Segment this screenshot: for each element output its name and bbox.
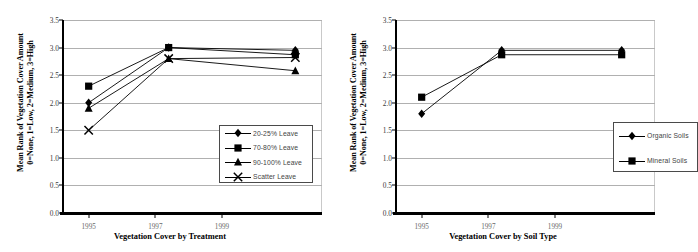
- data-point-marker: [84, 126, 92, 134]
- legend-item[interactable]: 20-25% Leave: [225, 128, 298, 138]
- x-tick-label: 1999: [215, 223, 229, 231]
- y-axis-title-line2: 0=None, 1=Low, 2=Medium, 3=High: [359, 0, 369, 205]
- y-tick-label: 1.0: [50, 153, 59, 162]
- y-axis-title-line1: Mean Rank of Vegetation Cover Amount: [16, 0, 26, 205]
- legend: 20-25% Leave70-80% Leave90-100% LeaveSca…: [219, 125, 313, 183]
- series-line: [89, 58, 296, 131]
- y-tick-label: 0.0: [50, 209, 59, 218]
- y-tick-label: 2.5: [50, 71, 59, 80]
- legend-marker-diamond-icon: [619, 131, 645, 141]
- y-tick-label: 2.0: [50, 98, 59, 107]
- legend-marker-diamond-icon: [225, 128, 251, 138]
- legend-marker-cross-icon: [225, 172, 251, 182]
- data-point-marker: [498, 51, 505, 58]
- x-tick-label: 1999: [548, 223, 562, 231]
- x-axis-title: Vegetation Cover by Soil Type: [373, 232, 633, 241]
- series-layer: [395, 20, 655, 213]
- x-tick-label: 1997: [481, 223, 495, 231]
- y-axis-title: Mean Rank of Vegetation Cover Amount 0=N…: [349, 0, 368, 205]
- y-tick-label: 1.0: [383, 153, 392, 162]
- legend-label: 20-25% Leave: [253, 130, 298, 137]
- legend-item[interactable]: Mineral Soils: [619, 156, 687, 166]
- series-line: [89, 48, 296, 103]
- y-tick-label: 2.5: [383, 71, 392, 80]
- x-axis-title: Vegetation Cover by Treatment: [40, 232, 300, 241]
- y-tick-label: 0.5: [50, 181, 59, 190]
- data-point-marker: [618, 51, 625, 58]
- y-tick-label: 3.5: [50, 16, 59, 25]
- plot-area: 0.00.51.01.52.02.53.03.5199519971999: [395, 20, 655, 213]
- series-line: [422, 55, 622, 97]
- legend-item[interactable]: 90-100% Leave: [225, 157, 302, 167]
- legend: Organic SoilsMineral Soils: [613, 122, 698, 172]
- series-line: [422, 50, 622, 113]
- y-tick-label: 0.0: [383, 209, 392, 218]
- series-layer: [62, 20, 322, 213]
- legend-marker-square-icon: [619, 156, 645, 166]
- x-tick-mark: [88, 214, 89, 218]
- y-axis-title-line2: 0=None, 1=Low, 2=Medium, 3=High: [26, 0, 36, 205]
- x-tick-label: 1997: [148, 223, 162, 231]
- x-tick-label: 1995: [81, 223, 95, 231]
- y-tick-label: 3.5: [383, 16, 392, 25]
- legend-item[interactable]: Organic Soils: [619, 131, 689, 141]
- plot-area: 0.00.51.01.52.02.53.03.5199519971999: [62, 20, 322, 213]
- legend-label: Mineral Soils: [647, 157, 687, 164]
- data-point-marker: [85, 104, 93, 112]
- legend-item[interactable]: Scatter Leave: [225, 172, 296, 182]
- data-point-marker: [418, 109, 425, 118]
- y-tick-label: 2.0: [383, 98, 392, 107]
- series-line: [89, 48, 296, 87]
- y-tick-label: 1.5: [50, 126, 59, 135]
- chart-panel-soil: Mean Rank of Vegetation Cover Amount 0=N…: [333, 0, 666, 252]
- legend-marker-square-icon: [225, 143, 251, 153]
- data-point-marker: [165, 44, 172, 51]
- y-tick-label: 3.0: [50, 43, 59, 52]
- x-tick-label: 1995: [414, 223, 428, 231]
- x-tick-mark: [155, 214, 156, 218]
- chart-panel-treatment: Mean Rank of Vegetation Cover Amount 0=N…: [0, 0, 333, 252]
- y-axis-title: Mean Rank of Vegetation Cover Amount 0=N…: [16, 0, 35, 205]
- x-tick-mark: [555, 214, 556, 218]
- data-point-marker: [85, 83, 92, 90]
- x-tick-mark: [222, 214, 223, 218]
- x-tick-mark: [421, 214, 422, 218]
- y-tick-label: 3.0: [383, 43, 392, 52]
- data-point-marker: [418, 94, 425, 101]
- legend-label: 90-100% Leave: [253, 159, 302, 166]
- x-tick-mark: [488, 214, 489, 218]
- y-axis-title-line1: Mean Rank of Vegetation Cover Amount: [349, 0, 359, 205]
- series-line: [89, 59, 296, 109]
- y-tick-label: 1.5: [383, 126, 392, 135]
- y-tick-label: 0.5: [383, 181, 392, 190]
- legend-marker-triangle-icon: [225, 157, 251, 167]
- legend-item[interactable]: 70-80% Leave: [225, 143, 298, 153]
- legend-label: Scatter Leave: [253, 173, 296, 180]
- legend-label: Organic Soils: [647, 132, 689, 139]
- legend-label: 70-80% Leave: [253, 144, 298, 151]
